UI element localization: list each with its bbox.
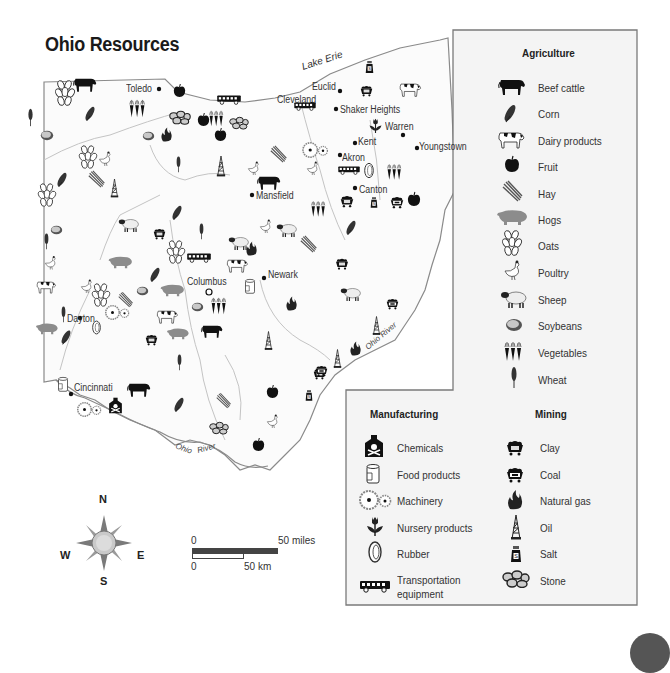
compass-north: N (99, 493, 107, 505)
legend-item-salt: Salt (540, 548, 557, 560)
city-shaker-heights: Shaker Heights (340, 104, 400, 115)
city-columbus: Columbus (187, 276, 227, 287)
stones-icon (502, 570, 530, 588)
legend-item-machinery: Machinery (397, 495, 443, 507)
legend-item-stone: Stone (540, 575, 566, 587)
legend-item-hay: Hay (538, 188, 556, 200)
legend-item-food-products: Food products (397, 469, 460, 481)
city-newark: Newark (268, 269, 298, 280)
legend-item-wheat: Wheat (538, 374, 567, 386)
hay-icon (502, 180, 524, 202)
carrots-icon (503, 341, 525, 363)
hog-icon (497, 208, 529, 226)
tulip-icon (365, 515, 385, 537)
chicken-icon (503, 259, 523, 281)
legend-item-oil: Oil (540, 522, 552, 534)
sheep-icon (500, 289, 528, 309)
scale-bar-km (192, 554, 244, 559)
oil-derrick-icon (510, 514, 522, 540)
coal-cart-icon (506, 467, 524, 483)
legend-item-rubber: Rubber (397, 548, 429, 560)
oats-icon (501, 230, 523, 256)
legend-agriculture-heading: Agriculture (522, 47, 575, 59)
legend-manufacturing-heading: Manufacturing (370, 408, 438, 420)
city-cincinnati: Cincinnati (74, 382, 113, 393)
legend-item-chemicals: Chemicals (397, 442, 443, 454)
legend-item-coal: Coal (540, 469, 560, 481)
city-akron: Akron (342, 152, 365, 163)
legend-item-poultry: Poultry (538, 267, 569, 279)
city-warren: Warren (385, 121, 414, 132)
legend-item-oats: Oats (538, 240, 559, 252)
compass-west: W (60, 549, 70, 561)
compass-east: E (137, 549, 144, 561)
city-toledo: Toledo (126, 83, 152, 94)
legend-item-corn: Corn (538, 108, 559, 120)
lake-erie-label: Lake Erie (300, 48, 344, 72)
can-icon (365, 463, 381, 485)
city-youngstown: Youngstown (419, 141, 467, 152)
legend-item-natural-gas: Natural gas (540, 495, 591, 507)
scale-miles-end: 50 miles (278, 535, 315, 546)
ohio-river-label-2: River (196, 441, 217, 455)
apple-icon (504, 155, 520, 173)
city-mansfield: Mansfield (256, 190, 294, 201)
city-kent: Kent (358, 136, 376, 147)
wheat-icon (510, 365, 518, 389)
gears-icon (358, 490, 392, 510)
compass-rose-icon (74, 513, 134, 573)
salt-shaker-icon (510, 545, 522, 563)
scale-km-end: 50 km (244, 561, 271, 572)
legend-item-clay: Clay (540, 442, 560, 454)
legend-item-sheep: Sheep (538, 294, 567, 306)
dairy-cow-icon (496, 128, 526, 150)
city-cleveland: Cleveland (277, 94, 316, 105)
compass-south: S (100, 575, 107, 587)
flame-icon (506, 488, 524, 510)
tire-icon (368, 541, 382, 563)
legend-mining-heading: Mining (535, 408, 567, 420)
bus-icon (359, 579, 391, 593)
legend-item-beef-cattle: Beef cattle (538, 82, 585, 94)
scale-km-start: 0 (191, 561, 197, 572)
page-corner-tab (630, 633, 670, 673)
legend-item-fruit: Fruit (538, 161, 558, 173)
legend-item-dairy-products: Dairy products (538, 135, 602, 147)
city-dayton: Dayton (67, 313, 95, 324)
chemical-bottle-icon (362, 434, 386, 458)
legend-item-hogs: Hogs (538, 214, 561, 226)
legend-item-soybeans: Soybeans (538, 320, 582, 332)
capital-star-icon (206, 289, 212, 295)
city-euclid: Euclid (312, 81, 336, 92)
soybean-icon (505, 318, 523, 332)
legend-item-vegetables: Vegetables (538, 347, 587, 359)
ohio-river-label-1: Ohio (174, 441, 193, 455)
legend-item-nursery-products: Nursery products (397, 522, 472, 534)
city-canton: Canton (359, 184, 387, 195)
scale-miles-start: 0 (191, 535, 197, 546)
legend-item-transportation-line2: equipment (397, 588, 443, 600)
clay-cart-icon (506, 440, 524, 456)
legend-item-transportation: Transportation (397, 574, 460, 586)
beef-cattle-icon (497, 76, 527, 96)
corn-icon (504, 102, 516, 124)
